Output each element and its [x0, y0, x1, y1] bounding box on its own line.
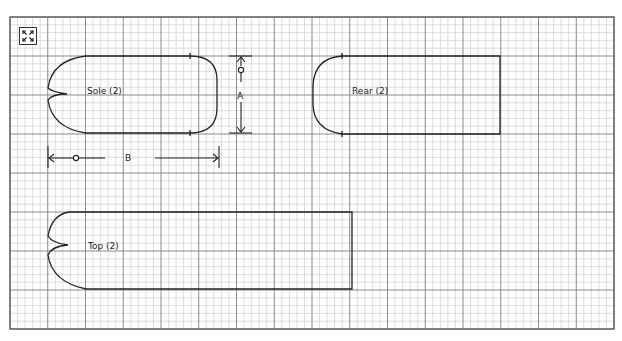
dimension-a-label: A — [237, 91, 244, 101]
piece-label-rear: Rear (2) — [352, 86, 388, 96]
piece-label-top: Top (2) — [87, 241, 119, 251]
expand-arrows-icon — [20, 28, 36, 44]
dimension-a-handle — [238, 67, 243, 72]
expand-button[interactable] — [19, 27, 37, 45]
pattern-canvas: Sole (2) A B Rear (2) Top (2) — [0, 0, 622, 341]
dimension-b-handle — [73, 155, 78, 160]
dimension-b-label: B — [125, 153, 131, 163]
piece-label-sole: Sole (2) — [87, 86, 122, 96]
